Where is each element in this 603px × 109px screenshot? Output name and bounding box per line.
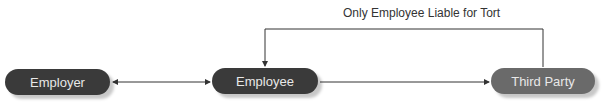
employer-node: Employer bbox=[5, 69, 110, 95]
employee-node: Employee bbox=[212, 68, 318, 94]
third-party-node: Third Party bbox=[491, 68, 595, 94]
tort-liability-arrow bbox=[265, 29, 543, 67]
tort-label: Only Employee Liable for Tort bbox=[343, 6, 500, 20]
